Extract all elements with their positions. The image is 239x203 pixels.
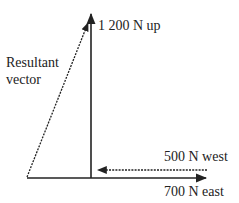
resultant-vector-arrow bbox=[27, 23, 88, 177]
label-east: 700 N east bbox=[164, 184, 224, 199]
label-up: 1 200 N up bbox=[98, 18, 161, 33]
label-west: 500 N west bbox=[164, 149, 228, 164]
label-resultant-line2: vector bbox=[6, 72, 41, 87]
force-vector-diagram: 1 200 N up Resultant vector 500 N west 7… bbox=[0, 0, 239, 203]
label-resultant-line1: Resultant bbox=[6, 55, 59, 70]
